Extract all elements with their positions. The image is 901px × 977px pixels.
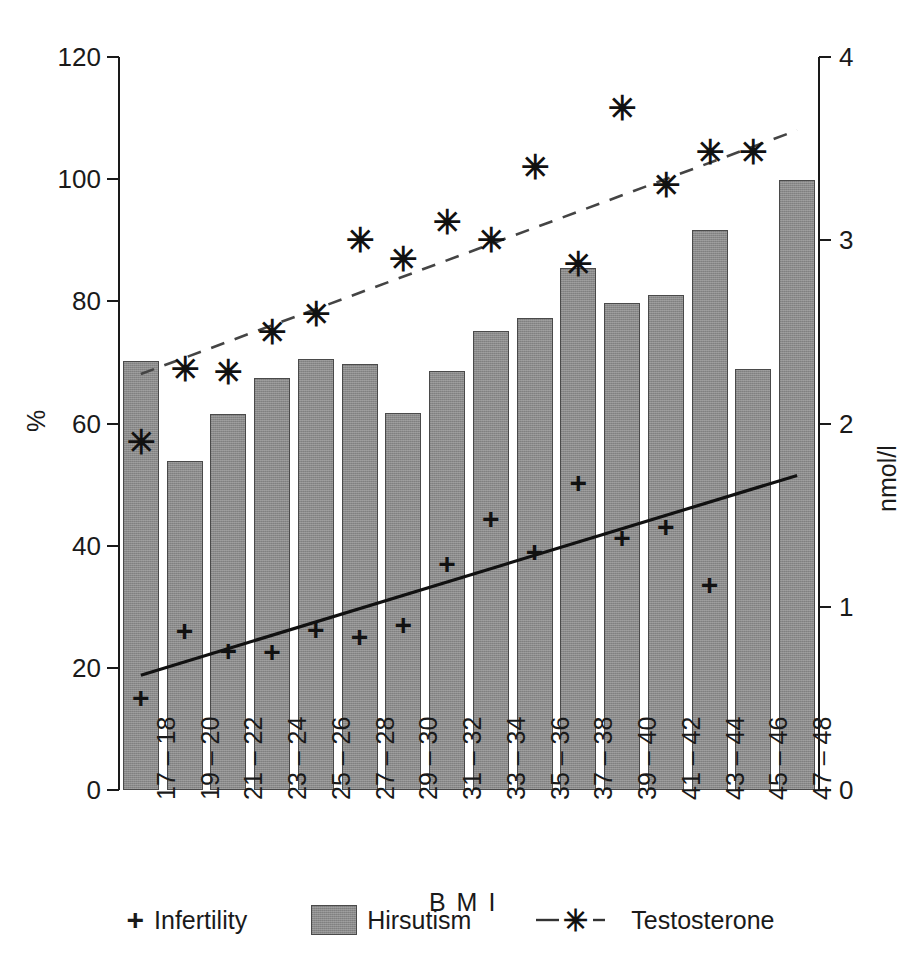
left-tick-label: 120 [58,42,101,73]
right-tick-label: 0 [839,775,853,806]
x-tick-label: 29 – 30 [414,717,443,800]
right-tick-label: 3 [839,225,853,256]
infertility-marker: + [701,570,719,600]
infertility-marker: + [570,468,588,498]
legend-label-infertility: Infertility [154,906,247,935]
legend-label-hirsutism: Hirsutism [367,906,471,935]
testosterone-marker: ✳ [214,355,242,389]
legend-label-testosterone: Testosterone [631,906,774,935]
infertility-marker: + [307,615,325,645]
plus-icon: + [127,905,145,935]
right-axis-title: nmol/l [873,445,901,512]
testosterone-marker: ✳ [433,205,461,239]
gray-swatch-icon [311,905,357,935]
x-tick-label: 37 – 38 [589,717,618,800]
testosterone-marker: ✳ [171,352,199,386]
testosterone-marker: ✳ [127,425,155,459]
legend-item-testosterone[interactable]: ✳ Testosterone [535,906,774,935]
infertility-marker: + [176,616,194,646]
x-tick-label: 41 – 42 [677,717,706,800]
x-tick-label: 27 – 28 [371,717,400,800]
legend: + Infertility Hirsutism ✳ Testosterone [0,905,901,935]
infertility-marker: + [526,537,544,567]
infertility-marker: + [132,683,150,713]
infertility-marker: + [438,549,456,579]
left-tick-label: 60 [72,408,101,439]
testosterone-marker: ✳ [258,315,286,349]
chart-page: % nmol/l 020406080100120 01234 +++++++++… [0,0,901,977]
left-axis-title: % [22,410,51,432]
testosterone-marker: ✳ [696,135,724,169]
left-tick [107,545,119,547]
x-tick-label: 39 – 40 [633,717,662,800]
x-tick-label: 45 – 46 [764,717,793,800]
infertility-marker: + [395,610,413,640]
dashed-star-icon: ✳ [535,907,621,933]
testosterone-marker: ✳ [346,223,374,257]
infertility-marker: + [613,523,631,553]
left-tick [107,789,119,791]
legend-item-infertility[interactable]: + Infertility [127,905,248,935]
x-tick-label: 21 – 22 [239,717,268,800]
svg-text:✳: ✳ [563,907,588,933]
left-tick-label: 40 [72,530,101,561]
left-tick-label: 80 [72,286,101,317]
right-tick-label: 2 [839,408,853,439]
x-tick-label: 33 – 34 [502,717,531,800]
testosterone-marker: ✳ [564,247,592,281]
testosterone-marker: ✳ [302,297,330,331]
cropped-header-text [0,0,901,5]
x-tick-label: 35 – 36 [546,717,575,800]
testosterone-marker: ✳ [608,91,636,125]
x-tick-label: 19 – 20 [196,717,225,800]
right-tick [819,239,831,241]
right-tick [819,423,831,425]
left-tick-label: 20 [72,652,101,683]
left-tick [107,667,119,669]
infertility-marker: + [482,504,500,534]
right-tick [819,606,831,608]
x-tick-label: 31 – 32 [458,717,487,800]
x-tick-label: 23 – 24 [283,717,312,800]
left-tick [107,178,119,180]
plot-area: 020406080100120 01234 ++++++++++++++✳✳✳✳… [119,57,819,790]
left-tick-label: 100 [58,164,101,195]
left-tick [107,423,119,425]
testosterone-marker: ✳ [477,223,505,257]
x-tick-label: 25 – 26 [327,717,356,800]
legend-item-hirsutism[interactable]: Hirsutism [311,905,471,935]
infertility-marker: + [263,637,281,667]
x-tick-label: 47 – 48 [808,717,837,800]
testosterone-marker: ✳ [652,168,680,202]
infertility-marker: + [351,622,369,652]
testosterone-marker: ✳ [389,242,417,276]
testosterone-marker: ✳ [739,135,767,169]
right-tick-label: 4 [839,42,853,73]
x-tick-label: 17 – 18 [152,717,181,800]
testosterone-marker: ✳ [521,150,549,184]
x-tick-label: 43 – 44 [721,717,750,800]
infertility-marker: + [657,512,675,542]
right-tick [819,56,831,58]
left-tick [107,56,119,58]
infertility-trendline [141,475,797,675]
left-tick-label: 0 [87,775,101,806]
infertility-marker: + [220,636,238,666]
left-tick [107,300,119,302]
right-tick-label: 1 [839,591,853,622]
